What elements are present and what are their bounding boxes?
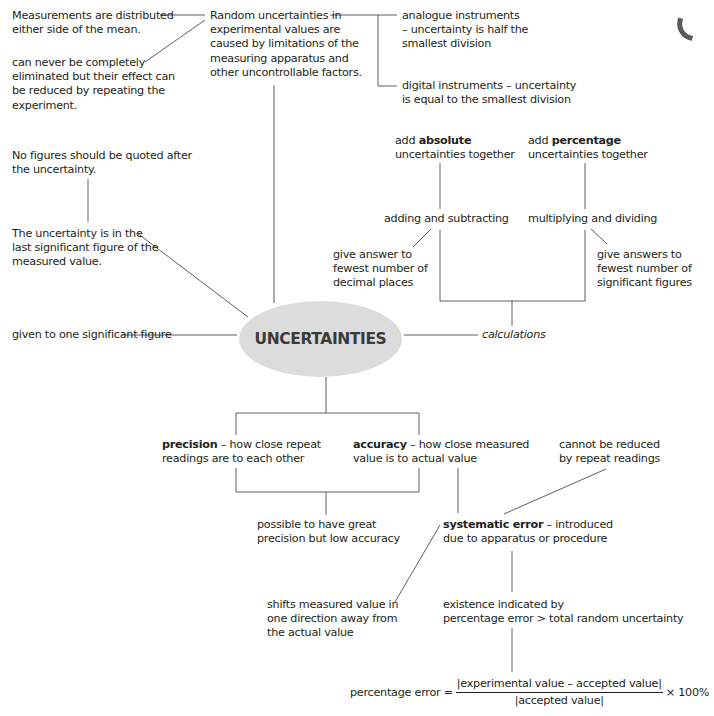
- text-line: can never be completely: [12, 56, 175, 70]
- text-line: precision but low accuracy: [257, 532, 400, 546]
- keyword-percentage: percentage: [552, 134, 621, 147]
- text-line: caused by limitations of the: [210, 37, 362, 51]
- percentage-error-formula: percentage error = |experimental value –…: [350, 677, 709, 708]
- text-line: other uncontrollable factors.: [210, 66, 362, 80]
- note-great-precision: possible to have great precision but low…: [257, 518, 400, 546]
- text-line: systematic error – introduced: [443, 518, 613, 532]
- keyword-systematic-error: systematic error: [443, 518, 543, 531]
- text-line: accuracy – how close measured: [353, 438, 529, 452]
- note-analogue-instruments: analogue instruments – uncertainty is ha…: [402, 9, 528, 52]
- node-precision: precision – how close repeat readings ar…: [162, 438, 321, 466]
- text-line: No figures should be quoted after: [12, 149, 192, 163]
- text-line: cannot be reduced: [559, 438, 660, 452]
- keyword-accuracy: accuracy: [353, 438, 407, 451]
- text-line: uncertainties together: [528, 148, 648, 162]
- text-line: give answers to: [597, 248, 692, 262]
- text-line: shifts measured value in: [267, 598, 398, 612]
- central-node-label: UNCERTAINTIES: [255, 330, 387, 348]
- note-never-eliminated: can never be completely eliminated but t…: [12, 56, 175, 113]
- text-span: add: [395, 134, 419, 147]
- text-line: possible to have great: [257, 518, 400, 532]
- text-line: either side of the mean.: [12, 23, 174, 37]
- note-existence-indicated: existence indicated by percentage error …: [443, 598, 683, 626]
- text-line: smallest division: [402, 37, 528, 51]
- text-line: Measurements are distributed: [12, 9, 174, 23]
- text-line: is equal to the smallest division: [402, 93, 576, 107]
- keyword-absolute: absolute: [419, 134, 472, 147]
- text-line: the actual value: [267, 626, 398, 640]
- note-one-sig-fig: given to one significant figure: [12, 328, 172, 342]
- central-node: UNCERTAINTIES: [239, 301, 402, 377]
- node-accuracy: accuracy – how close measured value is t…: [353, 438, 529, 466]
- text-line: by repeat readings: [559, 452, 660, 466]
- formula-numerator: |experimental value – accepted value|: [456, 677, 663, 693]
- note-significant-figures: give answers to fewest number of signifi…: [597, 248, 692, 291]
- text-line: uncertainties together: [395, 148, 515, 162]
- node-systematic-error: systematic error – introduced due to app…: [443, 518, 613, 546]
- node-multiplying-dividing: multiplying and dividing: [528, 212, 657, 226]
- note-no-figures: No figures should be quoted after the un…: [12, 149, 192, 177]
- note-cannot-reduce: cannot be reduced by repeat readings: [559, 438, 660, 466]
- text-line: fewest number of: [597, 262, 692, 276]
- formula-multiplier: × 100%: [666, 686, 709, 700]
- text-line: experimental values are: [210, 23, 362, 37]
- note-last-sig-fig: The uncertainty is in the last significa…: [12, 227, 158, 270]
- text-line: give answer to: [333, 248, 428, 262]
- text-line: be reduced by repeating the: [12, 84, 175, 98]
- text-line: fewest number of: [333, 262, 428, 276]
- formula-denominator: |accepted value|: [515, 693, 604, 708]
- note-digital-instruments: digital instruments – uncertainty is equ…: [402, 79, 576, 107]
- text-line: experiment.: [12, 99, 175, 113]
- text-line: percentage error > total random uncertai…: [443, 612, 683, 626]
- text-line: decimal places: [333, 276, 428, 290]
- text-line: value is to actual value: [353, 452, 529, 466]
- text-line: one direction away from: [267, 612, 398, 626]
- note-add-percentage: add percentage uncertainties together: [528, 134, 648, 162]
- text-span: – introduced: [543, 518, 613, 531]
- text-span: – how close repeat: [217, 438, 320, 451]
- text-span: – how close measured: [407, 438, 529, 451]
- text-line: analogue instruments: [402, 9, 528, 23]
- text-line: measuring apparatus and: [210, 52, 362, 66]
- text-line: due to apparatus or procedure: [443, 532, 613, 546]
- note-shifts-value: shifts measured value in one direction a…: [267, 598, 398, 641]
- text-line: existence indicated by: [443, 598, 683, 612]
- text-line: The uncertainty is in the: [12, 227, 158, 241]
- node-calculations: calculations: [482, 328, 546, 342]
- note-decimal-places: give answer to fewest number of decimal …: [333, 248, 428, 291]
- node-adding-subtracting: adding and subtracting: [384, 212, 509, 226]
- text-line: last significant figure of the: [12, 241, 158, 255]
- text-line: eliminated but their effect can: [12, 70, 175, 84]
- text-line: add percentage: [528, 134, 648, 148]
- text-line: digital instruments – uncertainty: [402, 79, 576, 93]
- text-line: the uncertainty.: [12, 163, 192, 177]
- note-distributed: Measurements are distributed either side…: [12, 9, 174, 37]
- text-line: Random uncertainties in: [210, 9, 362, 23]
- keyword-precision: precision: [162, 438, 217, 451]
- formula-lhs: percentage error =: [350, 686, 453, 700]
- text-line: measured value.: [12, 255, 158, 269]
- text-line: precision – how close repeat: [162, 438, 321, 452]
- text-line: readings are to each other: [162, 452, 321, 466]
- node-random-uncertainties: Random uncertainties in experimental val…: [210, 9, 362, 80]
- formula-fraction: |experimental value – accepted value| |a…: [456, 677, 663, 708]
- note-add-absolute: add absolute uncertainties together: [395, 134, 515, 162]
- text-line: add absolute: [395, 134, 515, 148]
- text-line: significant figures: [597, 276, 692, 290]
- text-span: add: [528, 134, 552, 147]
- text-line: – uncertainty is half the: [402, 23, 528, 37]
